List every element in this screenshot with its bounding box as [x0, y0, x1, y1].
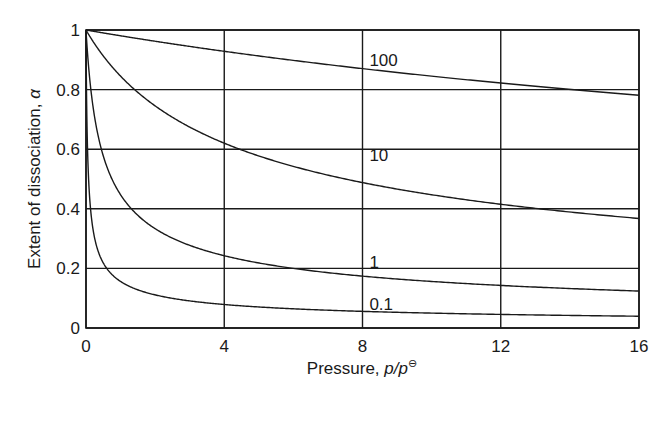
curve-label: 1 [369, 253, 378, 272]
x-tick-label: 8 [358, 337, 367, 356]
y-tick-label: 0.2 [56, 259, 80, 278]
grid-lines [86, 30, 639, 328]
y-tick-labels: 00.20.40.60.81 [56, 21, 80, 338]
x-tick-label: 0 [81, 337, 90, 356]
curve-label: 0.1 [369, 295, 393, 314]
x-tick-label: 16 [630, 337, 649, 356]
curve-label: 10 [369, 146, 388, 165]
y-tick-label: 0.4 [56, 200, 80, 219]
y-tick-label: 0.8 [56, 81, 80, 100]
x-tick-labels: 0481216 [81, 337, 648, 356]
y-axis-label: Extent of dissociation, α [25, 88, 44, 269]
dissociation-chart: 0481216 00.20.40.60.81 1001010.1 Pressur… [0, 0, 670, 430]
x-tick-label: 12 [491, 337, 510, 356]
x-tick-label: 4 [220, 337, 229, 356]
y-tick-label: 0.6 [56, 140, 80, 159]
curve-label: 100 [369, 51, 397, 70]
y-tick-label: 1 [71, 21, 80, 40]
y-tick-label: 0 [71, 319, 80, 338]
curve-labels: 1001010.1 [369, 51, 397, 314]
x-axis-label: Pressure, p/p⊖ [307, 357, 417, 378]
